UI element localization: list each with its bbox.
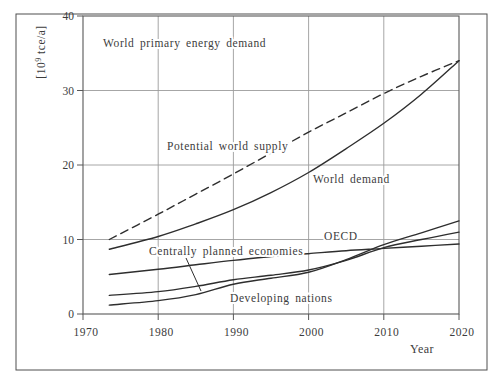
y-tick-label-0: 0: [68, 308, 74, 320]
annotation-label-centrally-planned-economies: Centrally planned economies: [149, 245, 303, 258]
x-axis-label: Year: [410, 342, 434, 356]
y-tick-label-20: 20: [63, 159, 75, 171]
curve-centrally-planned-economies: [109, 232, 459, 295]
figure: 010203040197019801990200020102020Year[10…: [0, 0, 499, 388]
annotation-label-world-demand: World demand: [313, 173, 390, 185]
annotation-chart-title: World primary energy demand: [103, 37, 266, 50]
x-tick-label-1990: 1990: [224, 326, 249, 338]
y-axis-label: [109 tce/a]: [34, 25, 47, 78]
y-tick-label-10: 10: [63, 234, 75, 246]
x-tick-label-2000: 2000: [299, 326, 324, 338]
x-tick-label-2010: 2010: [374, 326, 399, 338]
curve-world-demand: [109, 61, 459, 250]
annotation-label-oecd: OECD: [324, 230, 358, 242]
leader-label-centrally-planned-economies: [186, 258, 201, 291]
annotation-label-developing-nations: Developing nations: [230, 292, 333, 305]
y-tick-label-30: 30: [63, 85, 75, 97]
figure-border: [16, 14, 487, 370]
x-tick-label-1980: 1980: [149, 326, 174, 338]
energy-demand-chart: 010203040197019801990200020102020Year[10…: [0, 0, 499, 388]
annotation-label-potential-world-supply: Potential world supply: [167, 140, 288, 153]
y-tick-label-40: 40: [63, 10, 75, 22]
x-tick-label-1970: 1970: [74, 326, 99, 338]
x-tick-label-2020: 2020: [450, 326, 475, 338]
